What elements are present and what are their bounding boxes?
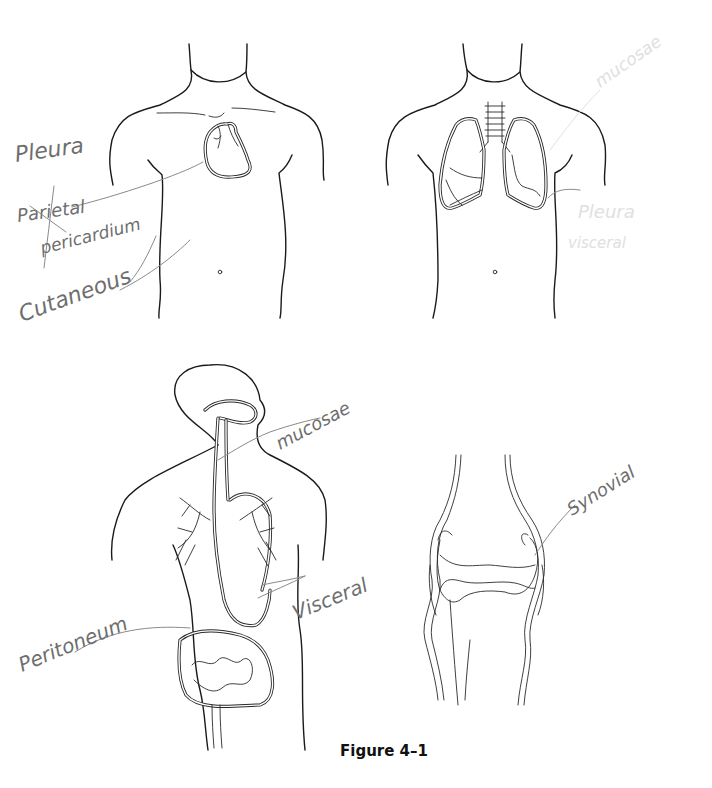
label-mucosae-erased: mucosae — [591, 31, 665, 91]
panel-heart-torso: Pleura Parietal pericardium Cutaneous — [13, 44, 324, 327]
label-cutaneous: Cutaneous — [15, 263, 134, 327]
bronchial-tree-illustration — [176, 498, 276, 566]
label-visceral: Visceral — [289, 573, 372, 625]
torso-outline — [110, 44, 324, 318]
panel-digestive-tract: mucosae Visceral Peritoneum — [15, 365, 372, 750]
torso-outline — [386, 44, 605, 318]
knee-joint-illustration — [424, 455, 545, 705]
label-visceral-erased: visceral — [568, 234, 627, 252]
heart-illustration — [205, 123, 250, 177]
panel-lungs-torso: mucosae Pleura visceral — [386, 31, 665, 318]
label-synovial: Synovial — [563, 461, 639, 519]
panel-knee-joint: Synovial — [424, 455, 639, 705]
lungs-leader-lines — [548, 90, 600, 198]
label-peritoneum: Peritoneum — [15, 611, 131, 676]
figure-canvas: Pleura Parietal pericardium Cutaneous — [0, 0, 712, 788]
label-pleura: Pleura — [13, 133, 85, 167]
figure-caption: Figure 4–1 — [340, 742, 428, 760]
digestive-tract-illustration — [179, 401, 273, 748]
lungs-illustration — [440, 119, 546, 208]
label-mucosae: mucosae — [272, 397, 354, 454]
label-pleura-erased: Pleura — [578, 201, 635, 222]
